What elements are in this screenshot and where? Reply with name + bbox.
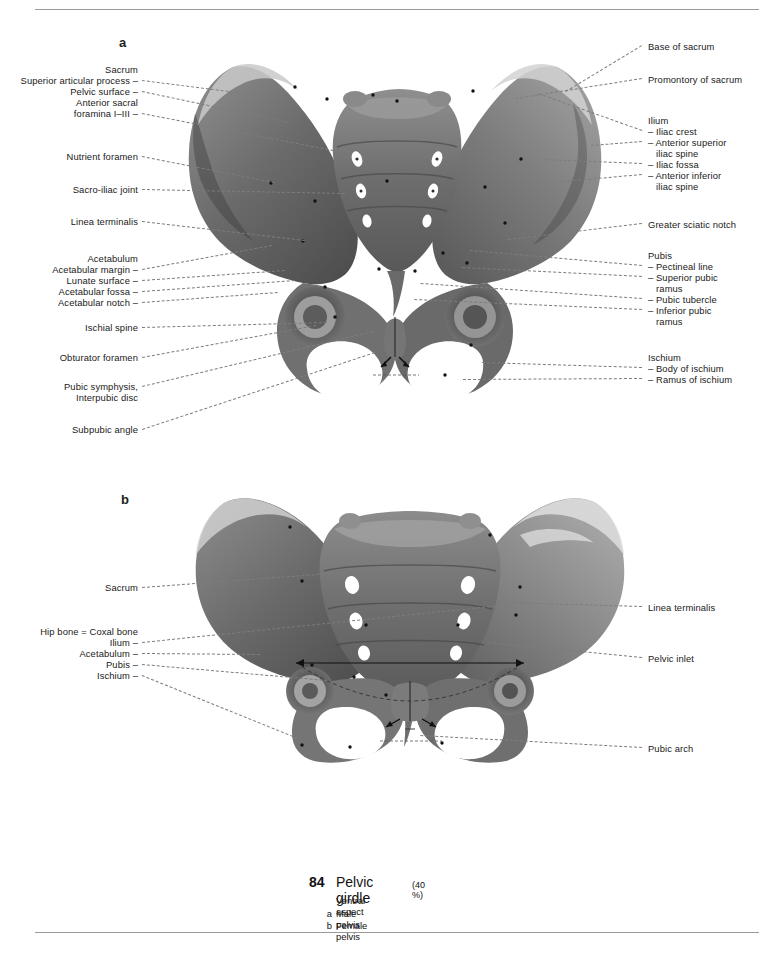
label-a-foramina-i-iii: foramina I–III – — [74, 108, 138, 119]
atlas-page: a b SacrumSuperior articular process –Pe… — [0, 0, 759, 967]
label-a-linea-terminalis: Linea terminalis — [71, 216, 138, 227]
label-b-pubic-arch: Pubic arch — [648, 743, 693, 754]
label-a-obturator-foramen: Obturator foramen — [60, 352, 138, 363]
label-a-pubic-symphysis: Pubic symphysis, — [64, 381, 138, 392]
label-b-ilium: Ilium – — [110, 637, 138, 648]
label-a-acetabular-fossa: Acetabular fossa – — [59, 286, 138, 297]
label-a-greater-sciatic-notch: Greater sciatic notch — [648, 219, 736, 230]
label-a-ramus: ramus — [648, 283, 683, 294]
label-a-iliac-spine: iliac spine — [648, 181, 698, 192]
label-a-pubis: Pubis — [648, 250, 672, 261]
label-a-subpubic-angle: Subpubic angle — [72, 424, 138, 435]
label-a-iliac-spine: iliac spine — [648, 148, 698, 159]
label-a-pubic-tubercle: – Pubic tubercle — [648, 294, 717, 305]
label-a-iliac-fossa: – Iliac fossa — [648, 159, 699, 170]
caption-key-letter-b: b — [322, 920, 332, 931]
label-a-pectineal-line: – Pectineal line — [648, 261, 713, 272]
label-a-acetabular-notch: Acetabular notch – — [58, 297, 138, 308]
label-b-linea-terminalis: Linea terminalis — [648, 602, 715, 613]
label-a-superior-articular-process: Superior articular process – — [21, 75, 138, 86]
label-b-sacrum: Sacrum — [105, 582, 138, 593]
caption-number: 84 — [309, 874, 325, 890]
label-a-superior-pubic: – Superior pubic — [648, 272, 718, 283]
caption-scale: (40 %) — [412, 880, 425, 900]
label-a-ischium: Ischium — [648, 352, 681, 363]
label-a-acetabulum: Acetabulum — [87, 253, 138, 264]
label-a-lunate-surface: Lunate surface – — [67, 275, 138, 286]
caption-key-letter-a: a — [322, 908, 332, 919]
label-b-hip-bone-coxal-bone: Hip bone = Coxal bone — [40, 626, 138, 637]
figure-male-pelvis — [175, 55, 615, 405]
label-a-anterior-inferior: – Anterior inferior — [648, 170, 721, 181]
label-a-anterior-superior: – Anterior superior — [648, 137, 727, 148]
panel-letter-b: b — [121, 492, 129, 507]
label-a-pelvic-surface: Pelvic surface – — [70, 86, 138, 97]
panel-letter-a: a — [119, 35, 126, 50]
label-a-sacro-iliac-joint: Sacro-iliac joint — [73, 184, 138, 195]
label-a-ilium: Ilium — [648, 115, 668, 126]
label-a-body-of-ischium: – Body of ischium — [648, 363, 724, 374]
label-a-inferior-pubic: – Inferior pubic — [648, 305, 712, 316]
label-b-acetabulum: Acetabulum – — [79, 648, 138, 659]
label-a-acetabular-margin: Acetabular margin – — [52, 264, 138, 275]
label-b-ischium: Ischium – — [97, 670, 138, 681]
label-a-ramus-of-ischium: – Ramus of ischium — [648, 374, 732, 385]
label-a-anterior-sacral: Anterior sacral — [76, 97, 138, 108]
label-a-sacrum: Sacrum — [105, 64, 138, 75]
label-a-promontory-of-sacrum: Promontory of sacrum — [648, 74, 742, 85]
caption-key-text-b: Female pelvis — [336, 920, 367, 942]
label-b-pubis: Pubis – — [106, 659, 138, 670]
label-b-pelvic-inlet: Pelvic inlet — [648, 653, 694, 664]
page-rule-top — [35, 9, 759, 10]
label-a-interpubic-disc: Interpubic disc — [76, 392, 138, 403]
label-a-base-of-sacrum: Base of sacrum — [648, 41, 715, 52]
label-a-ramus: ramus — [648, 316, 683, 327]
page-rule-bottom — [35, 932, 759, 933]
label-a-iliac-crest: – Iliac crest — [648, 126, 697, 137]
label-a-ischial-spine: Ischial spine — [85, 322, 138, 333]
label-a-nutrient-foramen: Nutrient foramen — [67, 151, 138, 162]
